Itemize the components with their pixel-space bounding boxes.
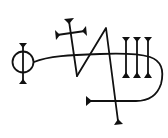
sigil-figure: sigil (0, 0, 168, 138)
three-bars-icon (122, 37, 152, 78)
zigzag-icon (77, 28, 123, 125)
phi-circle-icon (13, 43, 34, 84)
left-arrow-tip-icon (86, 96, 92, 106)
looping-line (34, 54, 162, 101)
sigil-drawing (0, 0, 168, 138)
